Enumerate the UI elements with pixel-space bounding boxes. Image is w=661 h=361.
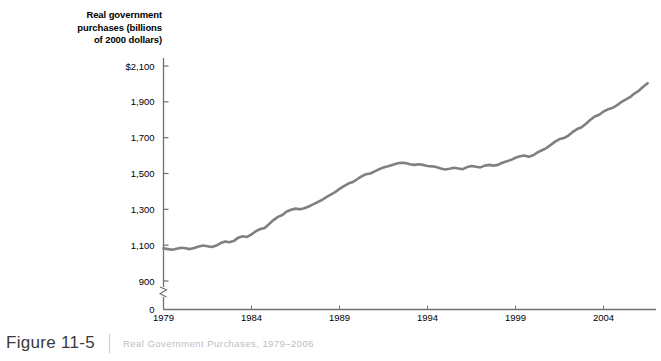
x-tick-label: 2004 (593, 312, 614, 323)
y-tick-label: 1,700 (131, 132, 155, 143)
caption-divider (109, 334, 110, 353)
y-tick-label: 1,900 (131, 96, 155, 107)
y-tick-label: 1,500 (131, 168, 155, 179)
y-tick-label: 900 (139, 276, 155, 287)
line-chart: $2,1001,9001,7001,5001,3001,1009000 1979… (0, 0, 661, 330)
series-line (164, 83, 648, 250)
y-axis-ticks: $2,1001,9001,7001,5001,3001,1009000 (125, 61, 168, 316)
figure-caption: Figure 11-5 Real Government Purchases, 1… (6, 330, 314, 356)
y-tick-label: 1,100 (131, 240, 155, 251)
figure-number: Figure 11-5 (6, 333, 95, 353)
x-tick-label: 1984 (241, 312, 262, 323)
y-tick-label: 1,300 (131, 204, 155, 215)
figure-container: Real government purchases (billions of 2… (0, 0, 661, 361)
axis-lines (160, 58, 656, 310)
x-tick-label: 1989 (329, 312, 350, 323)
y-tick-label: $2,100 (125, 61, 154, 72)
x-axis-ticks: 197919841989199419992004 (153, 306, 614, 324)
data-series-group (164, 83, 648, 250)
x-tick-label: 1994 (417, 312, 438, 323)
x-tick-label: 1979 (153, 312, 174, 323)
x-tick-label: 1999 (505, 312, 526, 323)
figure-title: Real Government Purchases, 1979–2006 (123, 338, 314, 349)
